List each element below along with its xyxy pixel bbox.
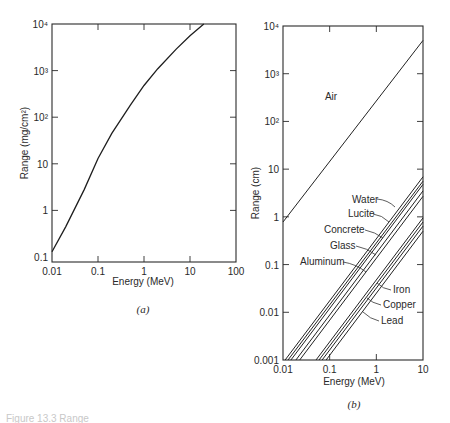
y-tick-label: 1 [273, 212, 279, 223]
y-tick-label: 0.1 [34, 252, 48, 263]
x-tick-label: 10 [417, 364, 429, 375]
x-tick-label: 0.1 [323, 364, 337, 375]
y-tick-label: 1 [42, 205, 48, 216]
chart-b-ylabel: Range (cm) [250, 167, 261, 219]
chart-b: 0.010.11100.0010.010.111010²10³10⁴ AirWa… [250, 21, 429, 411]
annotation-concrete: Concrete [324, 224, 365, 235]
annotation-glass: Glass [330, 240, 356, 251]
x-tick-label: 0.1 [91, 266, 105, 277]
chart-a-frame [52, 24, 236, 262]
chart-a-xlabel: Energy (MeV) [112, 276, 174, 287]
chart-a-sublabel: (a) [137, 303, 150, 316]
y-tick-label: 10² [265, 116, 280, 127]
x-tick-label: 0.01 [42, 266, 62, 277]
annotation-lucite: Lucite [348, 208, 375, 219]
y-tick-label: 10 [268, 164, 280, 175]
y-tick-label: 10 [37, 159, 49, 170]
y-tick-label: 10³ [34, 66, 49, 77]
chart-a-ylabel: Range (mg/cm²) [19, 107, 30, 179]
series-line-range [52, 24, 204, 252]
y-tick-label: 10² [34, 112, 49, 123]
series-line-aluminum [300, 196, 423, 360]
y-tick-label: 10³ [265, 69, 280, 80]
figure: 0.010.11101000.111010²10³10⁴ Energy (MeV… [0, 0, 450, 423]
chart-b-sublabel: (b) [348, 398, 361, 411]
annotation-aluminum: Aluminum [300, 256, 344, 267]
y-tick-label: 0.001 [254, 355, 279, 366]
figure-caption: Figure 13.3 Range [6, 413, 89, 423]
y-tick-label: 10⁴ [33, 19, 48, 30]
chart-a: 0.010.11101000.111010²10³10⁴ Energy (MeV… [19, 19, 245, 316]
x-tick-label: 100 [228, 266, 245, 277]
leader-arrow-icon [363, 312, 379, 321]
leader-arrow-icon [373, 214, 389, 222]
leader-arrow-icon [367, 298, 381, 305]
chart-a-ticks: 0.010.11101000.111010²10³10⁴ [33, 19, 245, 277]
annotation-water: Water [352, 194, 379, 205]
x-tick-label: 10 [184, 266, 196, 277]
chart-b-xlabel: Energy (MeV) [323, 376, 385, 387]
x-tick-label: 1 [374, 364, 380, 375]
y-tick-label: 0.1 [265, 260, 279, 271]
annotation-iron: Iron [393, 284, 410, 295]
annotation-copper: Copper [383, 299, 416, 310]
annotation-air: Air [325, 91, 338, 102]
chart-a-series [52, 24, 204, 252]
leader-arrow-icon [377, 199, 395, 207]
y-tick-label: 0.01 [260, 307, 280, 318]
y-tick-label: 10⁴ [264, 21, 279, 32]
annotation-lead: Lead [381, 315, 403, 326]
